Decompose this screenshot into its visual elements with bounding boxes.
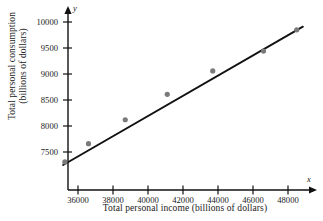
x-axis-variable-symbol: x <box>306 174 311 184</box>
y-axis-title-line2: (billions of dollars) <box>18 0 29 146</box>
data-point <box>261 49 266 54</box>
axes-group: y x <box>64 3 317 194</box>
y-axis-title-line1: Total personal consumption <box>7 12 17 120</box>
y-tick-label-7500: 7500 <box>41 147 58 157</box>
y-tick-label-10000: 10000 <box>37 17 58 27</box>
data-point <box>165 92 170 97</box>
regression-trend-line <box>63 27 303 165</box>
y-tick-label-9000: 9000 <box>41 69 58 79</box>
data-point <box>123 117 128 122</box>
data-point <box>210 68 215 73</box>
x-axis-title: Total personal income (billions of dolla… <box>55 203 315 213</box>
x-axis-arrow-icon <box>309 186 317 193</box>
scatter-plot-figure: y x 10000 9500 9000 8500 8000 7500 <box>0 0 323 221</box>
y-tick-label-8500: 8500 <box>41 95 58 105</box>
y-axis-title: Total personal consumption (billions of … <box>7 0 29 146</box>
plot-canvas: y x 10000 9500 9000 8500 8000 7500 <box>0 0 323 221</box>
data-point <box>62 159 67 164</box>
y-axis-tick-labels: 10000 9500 9000 8500 8000 7500 <box>37 17 58 157</box>
data-point <box>294 27 299 32</box>
y-tick-label-8000: 8000 <box>41 121 58 131</box>
y-tick-label-9500: 9500 <box>41 43 58 53</box>
y-axis-variable-symbol: y <box>72 3 77 13</box>
y-axis-arrow-icon <box>64 6 71 14</box>
data-point <box>86 141 91 146</box>
